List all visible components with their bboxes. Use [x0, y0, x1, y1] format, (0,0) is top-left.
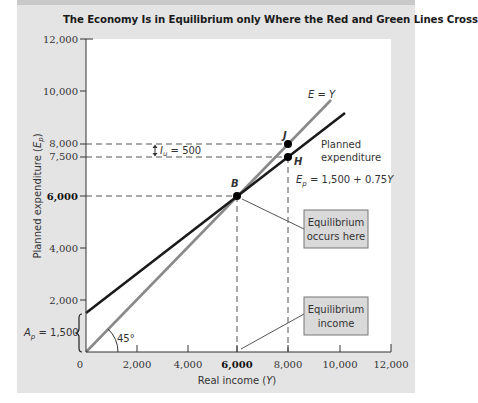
callout-occurs-box: [304, 210, 368, 248]
ap-label: Ap = 1,500: [23, 327, 79, 341]
point-h-label: H: [294, 156, 303, 167]
ap-rest: = 1,500: [35, 327, 78, 338]
planned-label-2: expenditure: [321, 152, 381, 163]
y-label-close: ): [32, 133, 43, 137]
x-tick-4000: 4,000: [174, 359, 203, 370]
iu-rest: = 500: [167, 145, 201, 156]
planned-label-1: Planned: [321, 139, 361, 150]
point-h: [284, 153, 292, 161]
callout-occurs-line2: occurs here: [307, 231, 366, 242]
x-tick-0: 0: [77, 359, 83, 370]
x-label-close: ): [272, 375, 276, 386]
angle-label: 45°: [117, 333, 135, 344]
ap-A: A: [23, 327, 31, 338]
x-tick-12000: 12,000: [374, 359, 409, 370]
ey-Y: Y: [329, 89, 336, 100]
point-j: [284, 140, 292, 148]
y-label-text: Planned expenditure (: [32, 148, 43, 259]
point-b-label: B: [231, 178, 239, 189]
x-tick-8000: 8,000: [274, 359, 303, 370]
callout-occurs-line1: Equilibrium: [308, 217, 365, 228]
y-tick-2000: 2,000: [49, 295, 78, 306]
x-tick-2000: 2,000: [123, 359, 152, 370]
x-tick-6000: 6,000: [221, 359, 252, 371]
point-b: [233, 192, 241, 200]
x-axis-label: Real income (Y): [198, 375, 277, 386]
y-tick-7500: 7,500: [49, 151, 78, 162]
ey-line-label: E = Y: [308, 89, 336, 100]
x-tick-10000: 10,000: [323, 359, 358, 370]
callout-income-box: [304, 297, 368, 335]
y-tick-6000: 6,000: [47, 191, 78, 203]
y-tick-10000: 10,000: [43, 86, 78, 97]
x-label-text: Real income (: [198, 375, 267, 386]
ey-eq: =: [314, 89, 329, 100]
callout-income-line1: Equilibrium: [308, 304, 365, 315]
y-axis-label: Planned expenditure (Ep): [32, 133, 45, 258]
y-tick-12000: 12,000: [43, 34, 78, 45]
eq-rest: = 1,500 + 0.75: [307, 174, 387, 185]
eq-Y: Y: [387, 174, 394, 185]
y-tick-8000: 8,000: [49, 138, 78, 149]
callout-income-line2: income: [318, 318, 355, 329]
y-tick-4000: 4,000: [49, 243, 78, 254]
